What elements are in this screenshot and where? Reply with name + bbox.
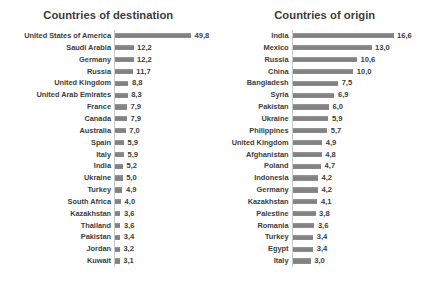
- bar-row: Canada7,9: [0, 113, 217, 125]
- bar-row: France7,9: [0, 101, 217, 113]
- value-label: 5,9: [128, 149, 139, 161]
- bar: [115, 211, 120, 216]
- bar: [293, 247, 314, 252]
- value-label: 6,0: [333, 101, 344, 113]
- value-label: 3,0: [314, 255, 325, 267]
- bar: [115, 152, 124, 157]
- bar-row: Ukraine5,9: [217, 113, 433, 125]
- plot-area-destination: United States of America49,8Saudi Arabia…: [0, 30, 217, 267]
- bar: [115, 223, 120, 228]
- category-label: Germany: [217, 184, 289, 196]
- value-label: 3,4: [317, 231, 328, 243]
- bar-row: Palestine3,8: [217, 208, 433, 220]
- category-label: Pakistan: [0, 231, 111, 243]
- bar: [115, 33, 191, 38]
- value-label: 5,7: [331, 125, 342, 137]
- bar-row: Poland4,7: [217, 160, 433, 172]
- value-label: 10,0: [357, 66, 372, 78]
- value-label: 7,5: [342, 77, 353, 89]
- bar: [293, 69, 354, 74]
- bar-row: Kazakhstan4,1: [217, 196, 433, 208]
- bar-row: Bangladesh7,5: [217, 77, 433, 89]
- bar: [115, 187, 122, 192]
- bar-row: Spain5,9: [0, 137, 217, 149]
- bar-row: Thailand3,6: [0, 220, 217, 232]
- bar-row: United Arab Emirates8,3: [0, 89, 217, 101]
- category-label: Ukraine: [217, 113, 289, 125]
- value-label: 3,4: [124, 231, 135, 243]
- value-label: 4,2: [322, 172, 333, 184]
- category-label: Afghanistan: [217, 149, 289, 161]
- bar-row: Indonesia4,2: [217, 172, 433, 184]
- bar-row: Turkey3,4: [217, 231, 433, 243]
- value-label: 6,9: [338, 89, 349, 101]
- value-label: 4,2: [322, 184, 333, 196]
- bar: [115, 45, 134, 50]
- bar-row: South Africa4,0: [0, 196, 217, 208]
- bar-row: Kuwait3,1: [0, 255, 217, 267]
- bar: [115, 235, 120, 240]
- category-label: Germany: [0, 54, 111, 66]
- bar-row: Australia7,0: [0, 125, 217, 137]
- category-label: Turkey: [0, 184, 111, 196]
- value-label: 10,6: [360, 54, 375, 66]
- bar: [293, 235, 314, 240]
- category-label: Italy: [0, 149, 111, 161]
- category-label: Russia: [0, 66, 111, 78]
- figure-root: Countries of destination United States o…: [0, 0, 433, 281]
- value-label: 8,3: [131, 89, 142, 101]
- bar: [293, 258, 311, 263]
- bar-row: Ukraine5,0: [0, 172, 217, 184]
- category-label: Italy: [217, 255, 289, 267]
- value-label: 12,2: [137, 42, 152, 54]
- bar-row: United Kingdom4,9: [217, 137, 433, 149]
- category-label: Australia: [0, 125, 111, 137]
- category-label: United Kingdom: [0, 77, 111, 89]
- bar-row: Philippines5,7: [217, 125, 433, 137]
- category-label: United Kingdom: [217, 137, 289, 149]
- bar: [115, 128, 126, 133]
- value-label: 7,9: [131, 101, 142, 113]
- category-label: United States of America: [0, 30, 111, 42]
- category-label: Indonesia: [217, 172, 289, 184]
- bar: [293, 128, 328, 133]
- category-label: Palestine: [217, 208, 289, 220]
- value-label: 3,6: [318, 220, 329, 232]
- bar-row: Turkey4,9: [0, 184, 217, 196]
- value-label: 7,0: [129, 125, 140, 137]
- bar-row: Russia10,6: [217, 54, 433, 66]
- value-label: 5,0: [126, 172, 137, 184]
- category-label: Romania: [217, 220, 289, 232]
- bar: [115, 57, 134, 62]
- bar-row: Syria6,9: [217, 89, 433, 101]
- bar: [293, 57, 357, 62]
- category-label: Spain: [0, 137, 111, 149]
- category-label: India: [217, 30, 289, 42]
- bar: [293, 140, 323, 145]
- value-label: 3,2: [123, 243, 134, 255]
- bar: [115, 81, 128, 86]
- bar: [293, 164, 322, 169]
- bar: [115, 247, 120, 252]
- category-label: Philippines: [217, 125, 289, 137]
- category-label: Syria: [217, 89, 289, 101]
- category-label: Kazakhstan: [0, 208, 111, 220]
- category-label: China: [217, 66, 289, 78]
- bar: [115, 140, 124, 145]
- value-label: 4,8: [325, 149, 336, 161]
- bar-row: Mexico13,0: [217, 42, 433, 54]
- value-label: 4,7: [325, 160, 336, 172]
- value-label: 3,4: [317, 243, 328, 255]
- category-label: Pakistan: [217, 101, 289, 113]
- bar-row: Russia11,7: [0, 66, 217, 78]
- value-label: 4,9: [126, 184, 137, 196]
- bar: [115, 93, 128, 98]
- category-label: South Africa: [0, 196, 111, 208]
- value-label: 4,0: [125, 196, 136, 208]
- value-label: 49,8: [195, 30, 210, 42]
- category-label: Bangladesh: [217, 77, 289, 89]
- chart-panel-origin: Countries of origin India16,6Mexico13,0R…: [217, 0, 433, 281]
- chart-title-origin: Countries of origin: [217, 0, 433, 22]
- bar-row: Germany4,2: [217, 184, 433, 196]
- value-label: 5,9: [332, 113, 343, 125]
